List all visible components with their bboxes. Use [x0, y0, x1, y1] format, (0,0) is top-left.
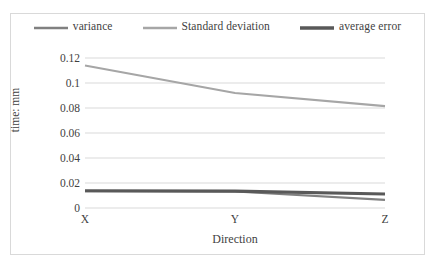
- x-axis-title: Direction: [85, 232, 385, 246]
- legend-label-average-error: average error: [339, 20, 401, 32]
- legend-label-standard-deviation: Standard deviation: [182, 20, 270, 32]
- plot-canvas: [85, 58, 385, 208]
- series-line-standard-deviation: [85, 66, 385, 107]
- legend-swatch-variance: [34, 17, 68, 35]
- x-tick-label: Y: [215, 212, 255, 226]
- y-tick-label: 0.06: [36, 127, 80, 139]
- chart-figure: variance Standard deviation average erro…: [0, 0, 435, 268]
- series-line-average-error: [85, 191, 385, 194]
- y-axis-tick-labels: 00.020.040.060.080.10.12: [36, 58, 80, 208]
- x-tick-label: X: [65, 212, 105, 226]
- y-tick-label: 0.02: [36, 177, 80, 189]
- legend-item-variance[interactable]: variance: [34, 17, 113, 35]
- x-axis-tick-labels: XYZ: [85, 212, 385, 228]
- gridlines: [85, 58, 385, 208]
- y-tick-label: 0.04: [36, 152, 80, 164]
- y-axis-title: time: mm: [9, 65, 21, 155]
- legend-swatch-average-error: [300, 17, 334, 35]
- legend-item-average-error[interactable]: average error: [300, 17, 401, 35]
- y-tick-label: 0.12: [36, 52, 80, 64]
- chart-legend: variance Standard deviation average erro…: [10, 13, 425, 39]
- plot-area: [85, 58, 385, 208]
- y-tick-label: 0.08: [36, 102, 80, 114]
- y-tick-label: 0.1: [36, 77, 80, 89]
- legend-swatch-standard-deviation: [143, 17, 177, 35]
- legend-item-standard-deviation[interactable]: Standard deviation: [143, 17, 270, 35]
- x-tick-label: Z: [365, 212, 405, 226]
- legend-label-variance: variance: [73, 20, 113, 32]
